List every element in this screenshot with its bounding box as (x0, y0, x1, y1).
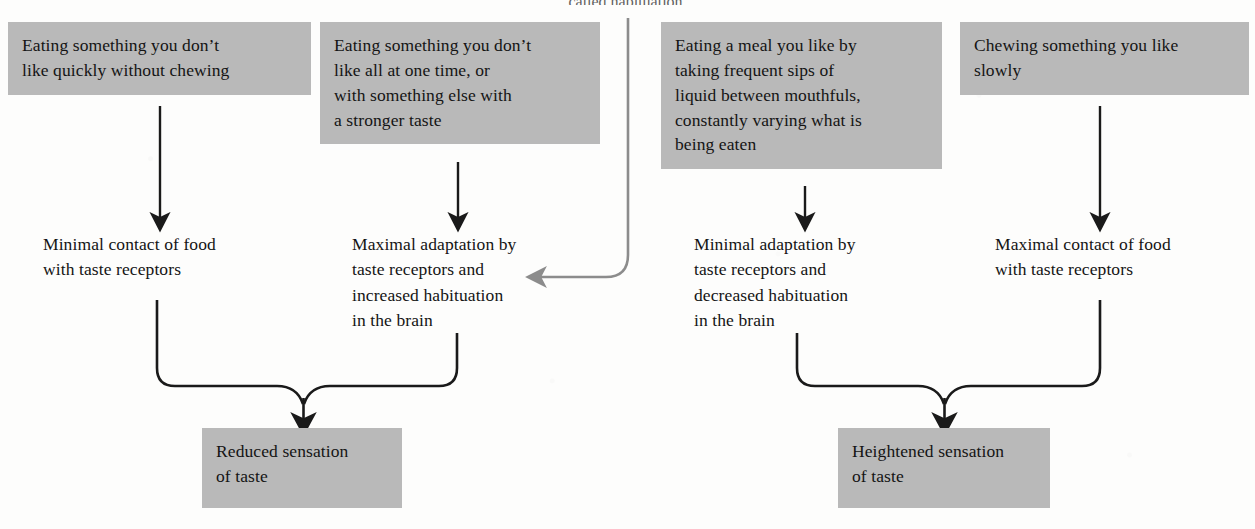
effect-label-1-text: Minimal contact of food with taste recep… (43, 232, 313, 283)
effect-label-3-text: Minimal adaptation by taste receptors an… (694, 232, 944, 334)
merge-arrow-left-outcome-leftleg (157, 300, 303, 404)
cause-box-1[interactable]: Eating something you don’t like quickly … (8, 22, 311, 95)
outcome-box-right[interactable]: Heightened sensation of taste (838, 428, 1050, 508)
cause-box-3-label: Eating a meal you like by taking frequen… (675, 33, 928, 157)
cause-box-2-label: Eating something you don’t like all at o… (334, 33, 586, 132)
merge-arrow-left-outcome-rightleg (304, 333, 457, 404)
cause-box-1-label: Eating something you don’t like quickly … (22, 33, 297, 83)
effect-label-4: Maximal contact of food with taste recep… (995, 232, 1255, 283)
merge-arrow-right-outcome-rightleg (945, 300, 1100, 404)
effect-label-4-text: Maximal contact of food with taste recep… (995, 232, 1255, 283)
merge-arrow-right-outcome-leftleg (797, 333, 944, 404)
effect-label-1: Minimal contact of food with taste recep… (43, 232, 313, 283)
flow-diagram: called habituation. (0, 0, 1255, 529)
outcome-box-left-label: Reduced sensation of taste (216, 439, 388, 489)
effect-label-2-text: Maximal adaptation by taste receptors an… (352, 232, 602, 334)
outcome-box-left[interactable]: Reduced sensation of taste (202, 428, 402, 508)
cause-box-4-label: Chewing something you like slowly (974, 33, 1235, 83)
outcome-box-right-label: Heightened sensation of taste (852, 439, 1036, 489)
cause-box-4[interactable]: Chewing something you like slowly (960, 22, 1249, 95)
effect-label-2: Maximal adaptation by taste receptors an… (352, 232, 602, 334)
cause-box-2[interactable]: Eating something you don’t like all at o… (320, 22, 600, 144)
cutoff-heading-text: called habituation. (0, 0, 1255, 5)
cause-box-3[interactable]: Eating a meal you like by taking frequen… (661, 22, 942, 169)
effect-label-3: Minimal adaptation by taste receptors an… (694, 232, 944, 334)
